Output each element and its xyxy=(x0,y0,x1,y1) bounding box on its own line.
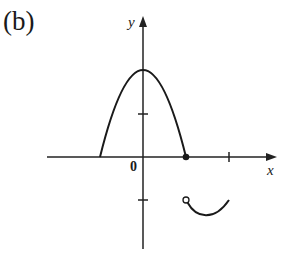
x-axis-label: x xyxy=(267,163,274,178)
function-graph-figure: (b) y x 0 xyxy=(0,0,289,255)
graph-canvas xyxy=(0,0,289,255)
lower-arc-curve xyxy=(188,200,230,215)
y-axis-label: y xyxy=(128,15,135,30)
y-axis-arrow-icon xyxy=(139,16,147,27)
filled-endpoint xyxy=(183,154,190,161)
open-endpoint xyxy=(183,197,189,203)
x-axis-arrow-icon xyxy=(266,153,277,161)
origin-label: 0 xyxy=(130,160,137,174)
